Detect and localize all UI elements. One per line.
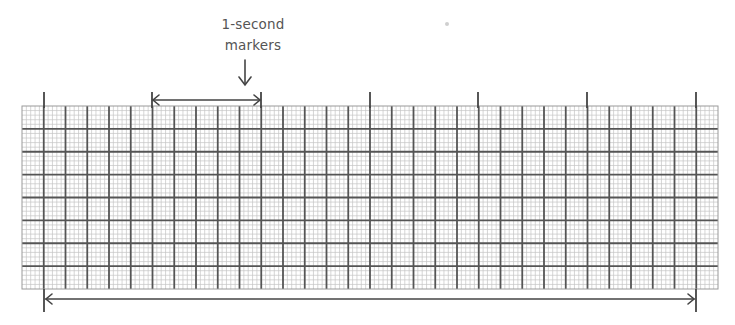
scan-speck	[445, 22, 449, 26]
total-span-arrow	[46, 294, 694, 304]
one-second-span-arrow	[153, 95, 260, 105]
ecg-strip-diagram	[0, 0, 735, 325]
down-arrow-icon	[239, 60, 251, 85]
